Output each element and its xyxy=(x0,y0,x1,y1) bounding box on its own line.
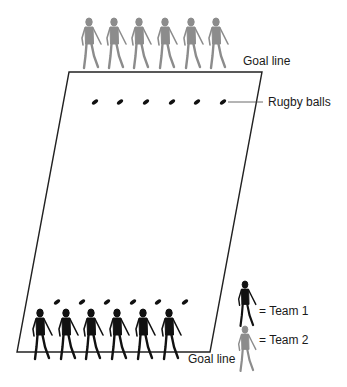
rugby-ball-icon xyxy=(103,298,111,305)
rugby-balls-label: Rugby balls xyxy=(268,95,331,109)
rugby-ball-icon xyxy=(168,98,176,105)
legend-team1-label: = Team 1 xyxy=(259,304,308,318)
team2-player-icon xyxy=(158,18,177,68)
team2-player-icon xyxy=(132,18,151,68)
team2-players xyxy=(82,18,228,68)
rugby-ball-icon xyxy=(142,98,150,105)
legend-team1-icon xyxy=(239,281,256,326)
team2-player-icon xyxy=(107,18,126,68)
rugby-ball-icon xyxy=(154,298,162,305)
rugby-ball-icon xyxy=(219,98,227,105)
goal-line-bottom-label: Goal line xyxy=(188,352,235,366)
rugby-ball-icon xyxy=(78,298,86,305)
team2-player-icon xyxy=(209,18,228,68)
rugby-ball-icon xyxy=(116,98,124,105)
team2-player-icon xyxy=(184,18,203,68)
rugby-ball-icon xyxy=(53,298,61,305)
rugby-balls-bottom xyxy=(53,298,189,305)
rugby-drill-diagram xyxy=(0,0,347,387)
legend-team2-icon xyxy=(239,326,256,371)
goal-line-top-label: Goal line xyxy=(243,54,290,68)
rugby-ball-icon xyxy=(193,98,201,105)
legend-team2-label: = Team 2 xyxy=(259,333,308,347)
rugby-balls-top xyxy=(91,98,227,105)
rugby-ball-icon xyxy=(91,98,99,105)
rugby-ball-icon xyxy=(129,298,137,305)
rugby-field xyxy=(17,72,262,352)
rugby-ball-icon xyxy=(181,298,189,305)
team2-player-icon xyxy=(82,18,101,68)
